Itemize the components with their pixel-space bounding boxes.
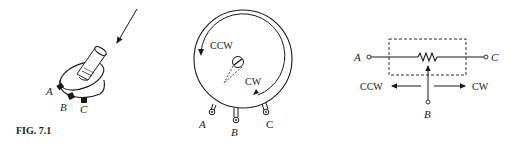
front-terminal-a xyxy=(209,104,216,115)
schematic-ccw-label: CCW xyxy=(360,81,383,92)
figure-canvas: A B C FIG. 7.1 CCW CW xyxy=(0,0,521,151)
front-label-b: B xyxy=(231,126,238,138)
ccw-label: CCW xyxy=(210,40,233,51)
schematic-label-b: B xyxy=(424,108,431,120)
pointer-arrow-icon xyxy=(117,9,137,43)
figure-caption: FIG. 7.1 xyxy=(16,125,51,136)
cw-arrowhead-icon xyxy=(253,89,259,95)
rotation-arc xyxy=(201,14,285,95)
terminal-label-b: B xyxy=(60,101,67,113)
front-terminal-b xyxy=(233,108,239,123)
front-label-a: A xyxy=(198,118,206,130)
front-label-c: C xyxy=(266,118,273,130)
resistor-zigzag-icon xyxy=(418,53,437,61)
schematic-label-c: C xyxy=(491,51,499,63)
terminal-a-node xyxy=(367,55,371,59)
ccw-arrowhead-icon xyxy=(198,49,204,56)
terminal-c-node xyxy=(484,55,488,59)
terminal-b-node xyxy=(426,100,430,104)
terminal-label-c: C xyxy=(80,103,88,115)
cw-label: CW xyxy=(245,76,262,87)
potentiometer-front-view: CCW CW A B C xyxy=(194,10,292,138)
potentiometer-physical-drawing: A B C xyxy=(45,9,137,115)
potentiometer-schematic: A C B CCW CW xyxy=(353,39,499,120)
front-terminal-c xyxy=(262,103,269,115)
schematic-label-a: A xyxy=(353,51,361,63)
terminal-label-a: A xyxy=(45,85,53,97)
pin-b xyxy=(67,92,75,100)
schematic-cw-label: CW xyxy=(472,81,489,92)
